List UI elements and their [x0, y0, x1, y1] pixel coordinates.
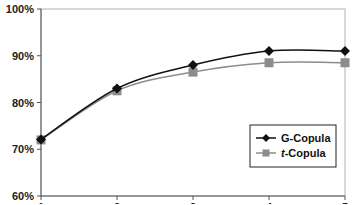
- axes: 60%70%80%90%100%12345: [6, 3, 348, 204]
- y-tick-label: 100%: [6, 3, 34, 15]
- x-tick-label: 3: [190, 201, 196, 205]
- plot-area: [41, 9, 345, 196]
- x-tick-label: 5: [342, 201, 348, 205]
- legend-label: G-Copula: [281, 132, 331, 144]
- y-tick-label: 90%: [12, 50, 34, 62]
- x-tick-label: 4: [266, 201, 273, 205]
- legend: G-Copulat-Copula: [250, 125, 336, 167]
- square-marker: [341, 58, 350, 67]
- line-chart: 60%70%80%90%100%12345 G-Copulat-Copula: [0, 0, 352, 204]
- x-tick-label: 2: [114, 201, 120, 205]
- square-marker: [265, 58, 274, 67]
- diamond-marker: [264, 46, 274, 56]
- y-tick-label: 60%: [12, 190, 34, 202]
- diamond-marker: [340, 46, 350, 56]
- y-tick-label: 80%: [12, 97, 34, 109]
- x-tick-label: 1: [38, 201, 44, 205]
- y-tick-label: 70%: [12, 143, 34, 155]
- square-icon: [263, 150, 270, 157]
- legend-label: t-Copula: [281, 147, 326, 159]
